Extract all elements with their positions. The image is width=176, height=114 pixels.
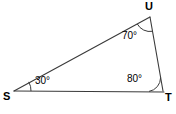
vertex-label-U: U	[145, 1, 153, 12]
vertex-label-S: S	[3, 91, 10, 102]
vertex-label-T: T	[165, 92, 172, 103]
angle-label-U: 70°	[122, 31, 137, 41]
triangle-drawing	[0, 0, 176, 114]
angle-arc-S	[29, 82, 31, 91]
triangle-figure: S U T 30° 70° 80°	[0, 0, 176, 114]
angle-label-T: 80°	[127, 74, 142, 84]
side-UT-line	[150, 17, 163, 91]
side-ST-line	[14, 91, 164, 92]
angle-arc-T	[149, 78, 161, 92]
angle-arc-U	[137, 24, 152, 32]
angle-label-S: 30°	[35, 76, 50, 86]
